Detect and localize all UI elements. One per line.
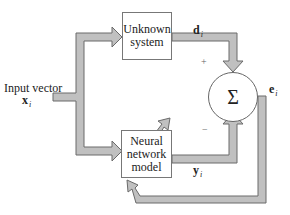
input-symbol: xi [22, 94, 31, 108]
input-label: Input vector [4, 82, 62, 95]
neural-network-box: Neuralnetworkmodel [121, 130, 172, 178]
error-label: ei [269, 83, 278, 97]
input-arrow-trunk [53, 27, 122, 161]
unknown-system-box: Unknownsystem [122, 12, 172, 60]
minus-sign: − [202, 124, 208, 135]
output-label: yi [193, 164, 202, 178]
desired-arrow [172, 33, 243, 72]
desired-label: di [193, 24, 203, 38]
plus-sign: + [201, 56, 207, 67]
summing-junction: Σ [208, 72, 258, 122]
